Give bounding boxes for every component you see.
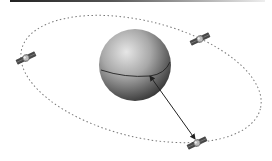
distance-arrow bbox=[150, 76, 195, 139]
satellite-bottom-icon bbox=[187, 136, 208, 150]
satellite-left-icon bbox=[16, 51, 37, 65]
satellite-upper-right-icon bbox=[190, 32, 211, 46]
orbit-diagram bbox=[0, 0, 272, 161]
